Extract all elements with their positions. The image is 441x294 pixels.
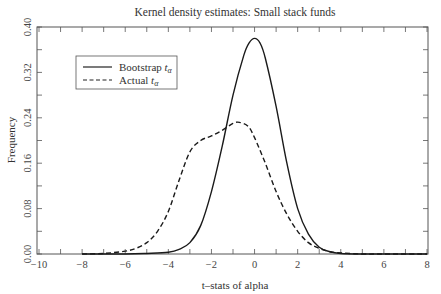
x-tick-label: −8: [77, 259, 88, 270]
x-axis-label: t–stats of alpha: [202, 279, 269, 291]
x-tick-label: 8: [424, 259, 429, 270]
y-tick-label: 0.32: [22, 63, 33, 81]
y-tick-label: 0.24: [22, 108, 33, 127]
y-tick-label: 0.00: [22, 245, 33, 263]
x-tick-label: −4: [163, 259, 175, 270]
x-tick-label: 0: [252, 259, 257, 270]
y-tick-label: 0.16: [22, 154, 33, 172]
y-axis-ticks: 0.000.080.160.240.320.40: [22, 18, 428, 263]
x-tick-label: 4: [338, 259, 344, 270]
x-tick-label: −10: [31, 259, 47, 270]
y-axis-label: Frequency: [5, 116, 17, 163]
kde-chart: Kernel density estimates: Small stack fu…: [0, 0, 441, 294]
x-tick-label: 6: [381, 259, 386, 270]
y-tick-label: 0.40: [22, 18, 33, 36]
y-tick-label: 0.08: [22, 199, 33, 217]
x-tick-label: −6: [120, 259, 131, 270]
chart-title: Kernel density estimates: Small stack fu…: [135, 6, 336, 19]
actual-t-alpha-curve: [82, 122, 427, 254]
x-tick-label: −2: [206, 259, 217, 270]
x-tick-label: 2: [295, 259, 300, 270]
legend-bootstrap: Bootstrap tα: [119, 61, 173, 75]
legend: Bootstrap tα Actual tα: [76, 56, 177, 89]
legend-actual: Actual tα: [119, 74, 159, 88]
